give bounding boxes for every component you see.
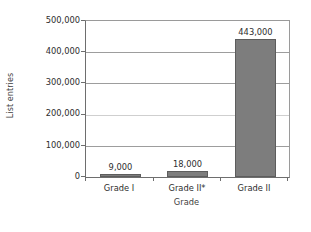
y-tick-label-100000: 100,000 [22,141,80,149]
y-tick-label-200000: 200,000 [22,109,80,117]
x-tick-label-grade-ii-star: Grade II* [153,183,221,193]
y-tick-label-0: 0 [22,172,80,180]
bar-value-grade-ii: 443,000 [229,28,282,37]
x-axis-tick-marks [85,177,288,182]
x-tick-mark-0 [85,177,86,181]
x-tick-label-grade-ii: Grade II [220,183,288,193]
bar-chart-figure: List entries 500,000 400,000 300,000 200… [0,0,311,232]
bar-grade-ii [235,39,276,177]
y-tick-label-400000: 400,000 [22,47,80,55]
x-tick-label-grade-i: Grade I [85,183,153,193]
y-axis-title: List entries [3,0,19,190]
bar-value-grade-ii-star: 18,000 [161,160,214,169]
x-tick-mark-1 [153,177,154,181]
y-tick-label-500000: 500,000 [22,16,80,24]
x-axis-tick-labels: Grade I Grade II* Grade II [85,183,288,197]
x-tick-mark-3 [287,177,288,181]
x-axis-title: Grade [85,197,288,207]
bar-value-grade-i: 9,000 [94,163,147,172]
plot-area: 9,000 18,000 443,000 [85,20,290,178]
y-axis-title-text: List entries [7,72,16,117]
y-tick-label-300000: 300,000 [22,78,80,86]
x-tick-mark-2 [220,177,221,181]
y-axis-tick-labels: 500,000 400,000 300,000 200,000 100,000 … [18,0,80,232]
